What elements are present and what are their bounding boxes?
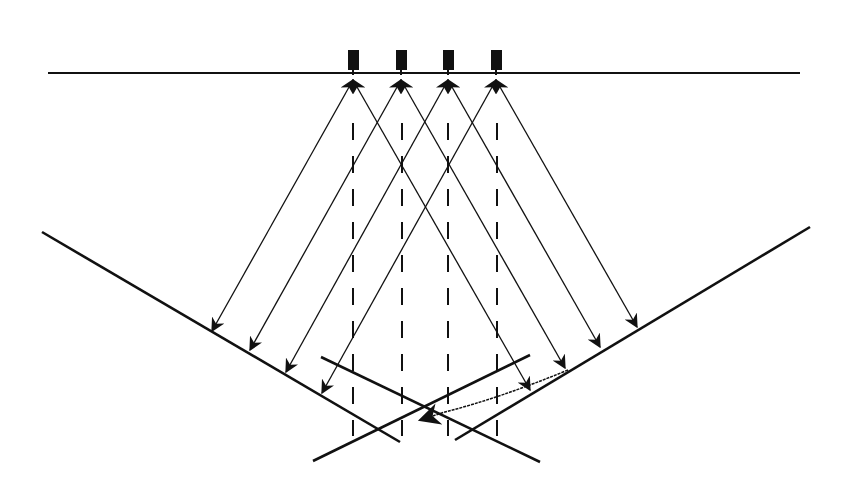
ray-arrow bbox=[250, 80, 401, 350]
ray-arrow bbox=[496, 80, 637, 327]
transducer-block bbox=[396, 50, 407, 70]
ray-arrows bbox=[212, 80, 637, 393]
right-reflector bbox=[455, 227, 810, 440]
diagram-canvas bbox=[0, 0, 846, 481]
transducer-block bbox=[348, 50, 359, 70]
ray-diagram bbox=[0, 0, 846, 481]
ray-arrow bbox=[212, 80, 353, 331]
transducer-block bbox=[491, 50, 502, 70]
ray-arrow bbox=[286, 80, 448, 372]
curved-ray bbox=[420, 370, 568, 420]
dashed-vertical-lines bbox=[353, 123, 497, 436]
transducer-block bbox=[443, 50, 454, 70]
transducers bbox=[348, 50, 502, 75]
ray-arrow bbox=[322, 80, 496, 393]
reflector-lines bbox=[42, 227, 810, 462]
ray-arrow bbox=[448, 80, 600, 347]
ray-arrow bbox=[353, 80, 530, 390]
cross-line-b bbox=[313, 355, 530, 461]
curved-ray-arrow bbox=[420, 370, 568, 420]
ray-arrow bbox=[401, 80, 565, 368]
